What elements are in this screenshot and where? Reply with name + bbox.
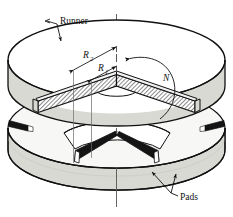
r1-subscript: 1 [105,68,108,75]
r2-label: R [82,50,89,60]
thrust-bearing-figure: R 2 R 1 N Runner Pads [0,0,233,217]
runner-label: Runner [60,16,89,26]
rotation-label: N [162,73,170,83]
r1-label: R [97,63,104,73]
figure-canvas: R 2 R 1 N Runner Pads [0,0,233,217]
pads-label: Pads [180,192,198,202]
